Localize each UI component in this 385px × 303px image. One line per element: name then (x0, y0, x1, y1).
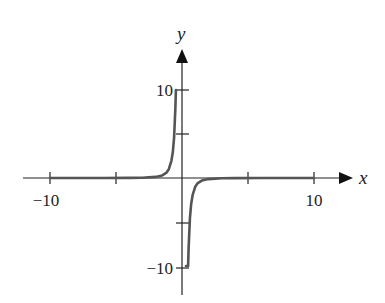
curve-right-branch (186, 178, 314, 266)
y-tick-label-10: 10 (156, 81, 173, 100)
x-tick-label-neg10: −10 (33, 191, 60, 210)
x-tick-label-10: 10 (306, 191, 323, 210)
y-axis-label: y (175, 23, 186, 44)
x-axis-label: x (358, 167, 368, 188)
function-plot: −10 10 10 −10 x y (0, 0, 385, 303)
curve-left-branch (50, 90, 176, 178)
y-tick-label-neg10: −10 (146, 259, 173, 278)
x-axis-arrow-icon (339, 172, 353, 184)
y-axis-arrow-icon (176, 49, 188, 63)
